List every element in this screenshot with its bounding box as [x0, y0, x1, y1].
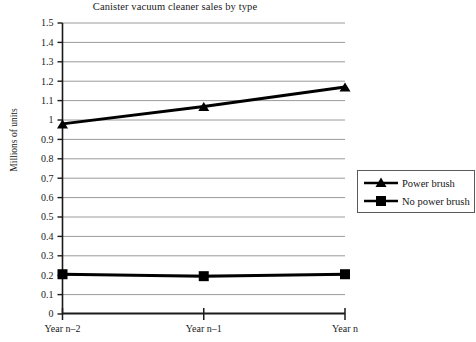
y-axis-tick-label: 0.1: [41, 289, 54, 300]
chart-container: Canister vacuum cleaner sales by type Mi…: [0, 0, 476, 342]
square-marker-icon: [364, 193, 398, 209]
data-point-marker: [58, 269, 68, 279]
y-axis-tick-label: 0.7: [41, 173, 54, 184]
y-axis-tick-label: 0.6: [41, 192, 54, 203]
legend-item-power-brush: Power brush: [364, 174, 455, 192]
y-axis-tick-label: 1.5: [41, 17, 54, 28]
y-axis-tick-label: 0: [49, 308, 54, 319]
legend-label-no-power-brush: No power brush: [402, 196, 470, 207]
data-point-marker: [340, 269, 350, 279]
y-axis-tick-label: 0.5: [41, 211, 54, 222]
y-axis-tick-labels: 00.10.20.30.40.50.60.70.80.911.11.21.31.…: [41, 17, 54, 319]
y-axis-tick-label: 0.3: [41, 250, 54, 261]
y-axis-tick-label: 0.2: [41, 270, 54, 281]
x-axis-tick-labels: Year n–2Year n–1Year n: [45, 323, 358, 334]
gridlines: [63, 23, 346, 295]
x-axis-tick-label: Year n–1: [186, 323, 222, 334]
triangle-marker-icon: [364, 175, 398, 191]
series-power-brush: [57, 83, 351, 129]
series-no-power-brush: [58, 269, 351, 281]
y-axis-tick-label: 0.8: [41, 153, 54, 164]
x-axis-tick-label: Year n–2: [45, 323, 81, 334]
y-axis-tick-label: 0.9: [41, 134, 54, 145]
y-axis-tick-label: 1: [49, 114, 54, 125]
y-axis-tick-label: 1.3: [41, 56, 54, 67]
y-axis-tick-label: 1.4: [41, 37, 54, 48]
y-axis-tick-label: 1.1: [41, 95, 54, 106]
data-series: [57, 83, 351, 282]
chart-legend: Power brush No power brush: [357, 170, 475, 213]
y-axis-tick-label: 1.2: [41, 76, 54, 87]
legend-label-power-brush: Power brush: [402, 178, 455, 189]
y-axis-tick-label: 0.4: [41, 231, 54, 242]
legend-item-no-power-brush: No power brush: [364, 192, 470, 210]
x-axis-tick-label: Year n: [332, 323, 358, 334]
data-point-marker: [199, 271, 209, 281]
